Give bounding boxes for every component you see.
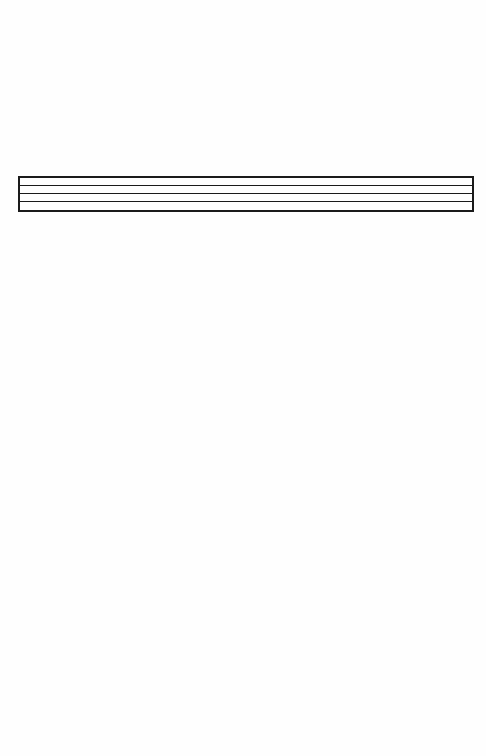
ruled-row xyxy=(20,185,472,193)
ruled-row xyxy=(20,201,472,209)
ruled-row xyxy=(20,178,472,185)
empty-ruled-box xyxy=(18,176,474,212)
ruled-row xyxy=(20,193,472,201)
document-page xyxy=(0,0,486,756)
